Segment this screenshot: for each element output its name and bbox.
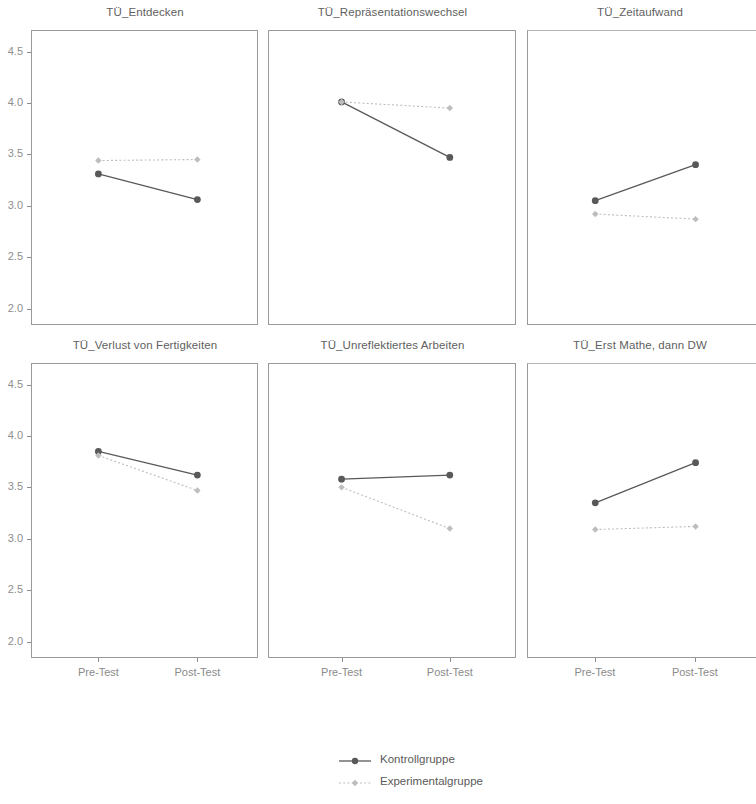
legend-item: Experimentalgruppe xyxy=(338,770,483,792)
plot-area xyxy=(527,363,756,658)
legend-marker-icon xyxy=(338,775,372,787)
legend-marker-icon xyxy=(338,753,372,765)
data-point xyxy=(692,523,698,529)
data-point xyxy=(592,526,598,532)
x-axis-tick xyxy=(695,658,696,662)
x-axis-label: Post-Test xyxy=(650,666,740,678)
panel-title: TÜ_Erst Mathe, dann DW xyxy=(515,339,756,351)
legend-item: Kontrollgruppe xyxy=(338,748,483,770)
data-point xyxy=(692,459,699,466)
legend-label: Experimentalgruppe xyxy=(380,775,483,787)
series-line xyxy=(595,526,695,529)
x-axis-label: Pre-Test xyxy=(550,666,640,678)
x-axis-tick xyxy=(595,658,596,662)
chart-panel: TÜ_Erst Mathe, dann DWPre-TestPost-Test xyxy=(0,0,756,804)
legend-label: Kontrollgruppe xyxy=(380,753,455,765)
data-point xyxy=(592,499,599,506)
legend: KontrollgruppeExperimentalgruppe xyxy=(338,748,483,792)
series-layer xyxy=(528,364,756,657)
chart-figure: TÜ_Entdecken4.54.03.53.02.52.0TÜ_Repräse… xyxy=(0,0,756,804)
series-line xyxy=(595,463,695,503)
